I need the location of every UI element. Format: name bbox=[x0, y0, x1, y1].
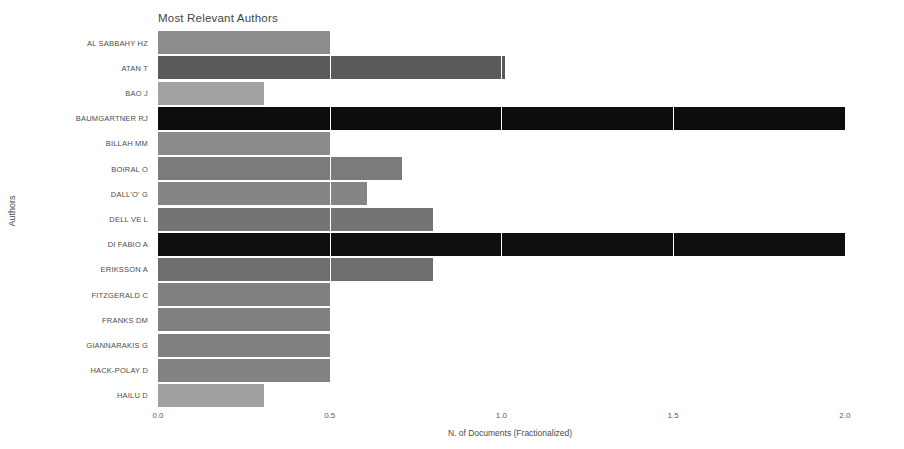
bar-row bbox=[158, 82, 862, 105]
y-axis-tick-label: BAUMGARTNER RJ bbox=[0, 114, 148, 123]
bar-row bbox=[158, 56, 862, 79]
bar[interactable] bbox=[158, 56, 505, 79]
bar[interactable] bbox=[158, 31, 330, 54]
bar[interactable] bbox=[158, 182, 367, 205]
x-axis-tick-label: 0.0 bbox=[152, 411, 163, 420]
y-axis-tick-label: BOIRAL O bbox=[0, 164, 148, 173]
y-axis-tick-label: HAILU D bbox=[0, 391, 148, 400]
y-axis-tick-label: BAO J bbox=[0, 89, 148, 98]
y-axis-tick-label: BILLAH MM bbox=[0, 139, 148, 148]
bar[interactable] bbox=[158, 283, 330, 306]
x-axis-tick-label: 0.5 bbox=[324, 411, 335, 420]
bar-row bbox=[158, 334, 862, 357]
gridline bbox=[330, 30, 331, 408]
bar-row bbox=[158, 182, 862, 205]
gridline bbox=[501, 30, 502, 408]
plot-area bbox=[158, 30, 862, 408]
x-axis-tick-label: 1.5 bbox=[668, 411, 679, 420]
bar-row bbox=[158, 132, 862, 155]
y-axis-tick-label: FITZGERALD C bbox=[0, 290, 148, 299]
y-axis-tick-label: ERIKSSON A bbox=[0, 265, 148, 274]
y-axis-tick-label: ATAN T bbox=[0, 63, 148, 72]
x-axis-tick-label: 1.0 bbox=[496, 411, 507, 420]
y-axis-tick-label: AL SABBAHY HZ bbox=[0, 38, 148, 47]
bar-row bbox=[158, 359, 862, 382]
bar-row bbox=[158, 258, 862, 281]
gridline bbox=[845, 30, 846, 408]
bar[interactable] bbox=[158, 334, 330, 357]
y-axis-tick-label: DELL VE L bbox=[0, 215, 148, 224]
y-axis-tick-label: HACK-POLAY D bbox=[0, 366, 148, 375]
bar[interactable] bbox=[158, 308, 330, 331]
bar[interactable] bbox=[158, 384, 264, 407]
bar[interactable] bbox=[158, 258, 433, 281]
bar-row bbox=[158, 208, 862, 231]
bar-row bbox=[158, 384, 862, 407]
y-axis-tick-label: DI FABIO A bbox=[0, 240, 148, 249]
y-axis-tick-label: GIANNARAKIS G bbox=[0, 341, 148, 350]
x-axis-title: N. of Documents (Fractionalized) bbox=[158, 428, 862, 438]
bar[interactable] bbox=[158, 208, 433, 231]
bar[interactable] bbox=[158, 132, 330, 155]
x-axis-tick-label: 2.0 bbox=[839, 411, 850, 420]
bar-row bbox=[158, 157, 862, 180]
bar[interactable] bbox=[158, 82, 264, 105]
bar-row bbox=[158, 308, 862, 331]
bar-row bbox=[158, 107, 862, 130]
bar-chart: Most Relevant Authors Authors AL SABBAHY… bbox=[0, 0, 904, 449]
gridline bbox=[673, 30, 674, 408]
bar[interactable] bbox=[158, 359, 330, 382]
bar[interactable] bbox=[158, 157, 402, 180]
y-axis-tick-label: FRANKS DM bbox=[0, 315, 148, 324]
y-axis-tick-label: DALL'O' G bbox=[0, 189, 148, 198]
bar-row bbox=[158, 283, 862, 306]
chart-title: Most Relevant Authors bbox=[158, 12, 278, 24]
bar-row bbox=[158, 31, 862, 54]
bar-row bbox=[158, 233, 862, 256]
